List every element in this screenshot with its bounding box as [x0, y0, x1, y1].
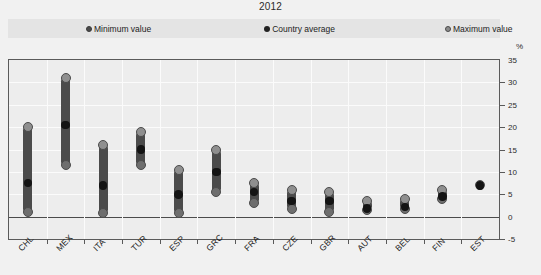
legend-item-label: Minimum value	[94, 24, 151, 34]
chart-root: 2012 Minimum valueCountry averageMaximum…	[0, 0, 541, 275]
vertical-gridline	[273, 60, 274, 239]
x-axis-tick	[273, 240, 274, 244]
range-bar	[23, 126, 32, 213]
marker-minimum-value	[61, 160, 71, 170]
vertical-gridline	[160, 60, 161, 239]
marker-maximum-value	[287, 185, 297, 195]
legend-avg-dot-icon	[264, 26, 270, 32]
vertical-gridline	[348, 60, 349, 239]
y-axis-tick	[500, 194, 505, 195]
x-axis-tick	[235, 240, 236, 244]
legend-min-dot-icon	[86, 26, 92, 32]
y-axis-tick	[500, 82, 505, 83]
vertical-gridline	[424, 60, 425, 239]
marker-country-average	[438, 192, 447, 201]
marker-maximum-value	[249, 178, 259, 188]
plot-area	[8, 59, 500, 240]
x-axis-tick	[160, 240, 161, 244]
marker-maximum-value	[174, 165, 184, 175]
vertical-gridline	[197, 60, 198, 239]
marker-maximum-value	[136, 127, 146, 137]
x-axis-tick	[197, 240, 198, 244]
legend-item-label: Country average	[272, 24, 335, 34]
legend-item-label: Maximum value	[453, 24, 513, 34]
y-axis-label: -5	[508, 235, 515, 244]
y-axis-label: 30	[508, 78, 517, 87]
y-axis-label: 0	[508, 212, 512, 221]
x-axis-tick	[348, 240, 349, 244]
marker-country-average	[363, 204, 372, 213]
y-axis-tick	[500, 127, 505, 128]
marker-country-average	[325, 197, 334, 206]
vertical-gridline	[235, 60, 236, 239]
x-axis-tick	[424, 240, 425, 244]
y-axis-tick	[500, 172, 505, 173]
y-axis-tick	[500, 105, 505, 106]
vertical-gridline	[461, 60, 462, 239]
y-axis-label: 25	[508, 100, 517, 109]
horizontal-gridline	[9, 127, 499, 128]
x-axis-tick	[122, 240, 123, 244]
marker-maximum-value	[61, 73, 71, 83]
horizontal-gridline	[9, 105, 499, 106]
marker-country-average	[174, 190, 183, 199]
y-axis-label: 35	[508, 56, 517, 65]
x-axis-tick	[84, 240, 85, 244]
x-axis-tick	[311, 240, 312, 244]
zero-axis-line	[9, 217, 499, 218]
marker-country-average	[61, 121, 70, 130]
horizontal-gridline	[9, 82, 499, 83]
vertical-gridline	[311, 60, 312, 239]
marker-country-average	[99, 181, 108, 190]
legend-item-max[interactable]: Maximum value	[445, 24, 513, 34]
vertical-gridline	[47, 60, 48, 239]
x-axis-tick	[386, 240, 387, 244]
chart-title: 2012	[0, 1, 541, 12]
legend-item-min[interactable]: Minimum value	[86, 24, 151, 34]
chart-legend: Minimum valueCountry averageMaximum valu…	[8, 19, 500, 38]
y-axis-unit-label: %	[516, 42, 523, 51]
marker-maximum-value	[23, 122, 33, 132]
range-bar	[99, 144, 108, 214]
horizontal-gridline	[9, 150, 499, 151]
marker-country-average	[476, 181, 485, 190]
legend-max-dot-icon	[445, 26, 451, 32]
y-axis-label: 10	[508, 167, 517, 176]
marker-country-average	[137, 145, 146, 154]
vertical-gridline	[84, 60, 85, 239]
legend-item-avg[interactable]: Country average	[264, 24, 335, 34]
marker-maximum-value	[211, 145, 221, 155]
y-axis-tick	[500, 239, 505, 240]
marker-country-average	[401, 203, 410, 212]
x-axis-tick	[47, 240, 48, 244]
horizontal-gridline	[9, 172, 499, 173]
x-axis-tick	[461, 240, 462, 244]
marker-minimum-value	[287, 204, 297, 214]
y-axis-label: 20	[508, 123, 517, 132]
y-axis-tick	[500, 150, 505, 151]
y-axis-label: 15	[508, 145, 517, 154]
vertical-gridline	[386, 60, 387, 239]
marker-country-average	[287, 197, 296, 206]
marker-country-average	[212, 168, 221, 177]
vertical-gridline	[122, 60, 123, 239]
y-axis-label: 5	[508, 190, 512, 199]
marker-minimum-value	[23, 207, 33, 217]
